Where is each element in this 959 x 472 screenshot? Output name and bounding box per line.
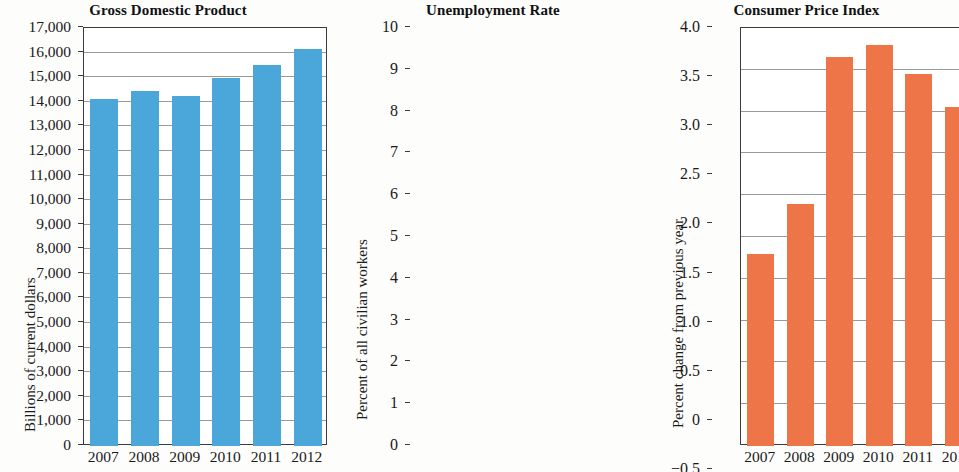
y-axis-ticks-gdp: 17,00016,00015,00014,00013,00012,00011,0… <box>13 27 79 445</box>
gridline <box>84 150 326 151</box>
y-tick-label: 1 <box>390 394 398 412</box>
chart-title-cpi: Consumer Price Index <box>664 2 949 19</box>
y-tick-label: 5 <box>390 227 398 245</box>
plot-area-gdp <box>83 27 327 445</box>
y-tick-label: 2,000 <box>36 387 71 405</box>
chart-title-gdp: Gross Domestic Product <box>18 2 318 19</box>
y-tick-mark <box>707 468 712 469</box>
y-tick-mark <box>405 277 410 278</box>
y-axis-ticks-unemployment: 109876543210 <box>346 27 406 445</box>
y-tick-label: 3 <box>390 311 398 329</box>
y-tick-label: 3.0 <box>680 116 700 134</box>
y-tick-mark <box>405 68 410 69</box>
y-tick-label: 4.0 <box>680 18 700 36</box>
y-tick-label: 7 <box>390 143 398 161</box>
y-tick-label: 14,000 <box>28 92 71 110</box>
gridline <box>84 347 326 348</box>
y-tick-mark <box>405 360 410 361</box>
y-tick-label: 0 <box>390 436 398 454</box>
gridline <box>84 371 326 372</box>
y-tick-label: 4,000 <box>36 338 71 356</box>
x-tick-label: 2011 <box>243 448 289 466</box>
x-tick-label: 2012 <box>284 448 330 466</box>
y-tick-label: 7,000 <box>36 264 71 282</box>
y-tick-label: 2.0 <box>680 214 700 232</box>
x-tick-label: 2009 <box>162 448 208 466</box>
y-tick-mark <box>405 26 410 27</box>
y-tick-label: 1.0 <box>680 313 700 331</box>
gridline <box>84 273 326 274</box>
y-tick-label: 6 <box>390 185 398 203</box>
y-tick-label: 10 <box>382 18 398 36</box>
y-tick-mark <box>707 222 712 223</box>
bar-2007 <box>90 99 118 446</box>
y-tick-label: 16,000 <box>28 43 71 61</box>
bar-2010 <box>212 78 240 446</box>
figure-canvas: Gross Domestic Product Billions of curre… <box>0 0 959 472</box>
y-tick-label: 8 <box>390 102 398 120</box>
y-tick-label: 0 <box>63 436 71 454</box>
y-tick-mark <box>707 124 712 125</box>
chart-panel-unemployment: Unemployment Rate Percent of all civilia… <box>334 0 654 472</box>
y-tick-label: 15,000 <box>28 67 71 85</box>
y-tick-label: 6,000 <box>36 288 71 306</box>
gridline <box>84 52 326 53</box>
y-tick-label: 2.5 <box>680 165 700 183</box>
y-tick-mark <box>405 193 410 194</box>
y-tick-mark <box>707 321 712 322</box>
x-tick-label: 2007 <box>80 448 126 466</box>
y-tick-mark <box>707 173 712 174</box>
y-axis-ticks-cpi: 4.03.53.02.52.01.51.00.50−0.5 <box>658 27 708 469</box>
x-tick-label: 2008 <box>121 448 167 466</box>
chart-panel-gdp: Gross Domestic Product Billions of curre… <box>0 0 334 472</box>
gridline <box>84 125 326 126</box>
gridline <box>84 297 326 298</box>
gridline <box>84 199 326 200</box>
gridline <box>84 248 326 249</box>
y-tick-label: 3.5 <box>680 67 700 85</box>
bar-2009 <box>172 96 200 446</box>
gridline <box>84 76 326 77</box>
y-tick-mark <box>405 235 410 236</box>
y-tick-mark <box>405 110 410 111</box>
gridline <box>84 396 326 397</box>
y-tick-label: 1,000 <box>36 411 71 429</box>
y-tick-label: 10,000 <box>28 190 71 208</box>
x-tick-label: 2010 <box>202 448 248 466</box>
y-tick-label: 5,000 <box>36 313 71 331</box>
bar-2008 <box>131 91 159 446</box>
y-tick-label: 4 <box>390 269 398 287</box>
y-tick-label: 3,000 <box>36 362 71 380</box>
y-tick-label: 9 <box>390 60 398 78</box>
y-tick-label: 12,000 <box>28 141 71 159</box>
y-tick-label: 17,000 <box>28 18 71 36</box>
y-tick-label: 0 <box>692 411 700 429</box>
y-tick-mark <box>707 26 712 27</box>
y-tick-label: 8,000 <box>36 239 71 257</box>
y-tick-mark <box>707 370 712 371</box>
gridline <box>84 175 326 176</box>
gridline <box>84 101 326 102</box>
y-tick-label: 11,000 <box>29 166 71 184</box>
y-tick-mark <box>405 151 410 152</box>
y-tick-label: 13,000 <box>28 116 71 134</box>
bar-2012 <box>294 49 322 446</box>
gridline <box>84 224 326 225</box>
y-tick-label: 9,000 <box>36 215 71 233</box>
y-tick-mark <box>405 319 410 320</box>
y-tick-label: 2 <box>390 352 398 370</box>
bar-2011 <box>253 65 281 446</box>
y-tick-mark <box>405 444 410 445</box>
y-tick-label: 1.5 <box>680 264 700 282</box>
y-tick-mark <box>707 75 712 76</box>
gridline <box>84 420 326 421</box>
chart-title-unemployment: Unemployment Rate <box>348 2 638 19</box>
y-tick-label: −0.5 <box>671 460 700 472</box>
y-tick-label: 0.5 <box>680 362 700 380</box>
y-tick-mark <box>707 272 712 273</box>
chart-panel-cpi: Consumer Price Index Percent change from… <box>654 0 959 472</box>
y-tick-mark <box>405 402 410 403</box>
y-tick-mark <box>707 419 712 420</box>
gridline <box>84 322 326 323</box>
